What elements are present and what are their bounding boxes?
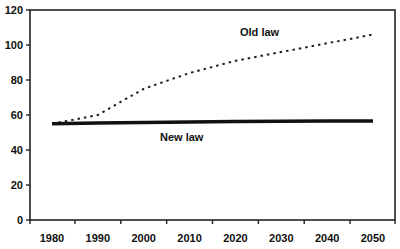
x-tick-label: 2040 — [315, 232, 339, 244]
line-chart: 020406080100120 198019902000201020202030… — [0, 0, 400, 249]
y-tick-label: 60 — [11, 109, 23, 121]
new-law-label: New law — [160, 131, 204, 143]
y-tick-label: 40 — [11, 144, 23, 156]
y-tick-label: 20 — [11, 179, 23, 191]
y-tick-label: 120 — [5, 4, 23, 16]
x-tick-label: 2030 — [269, 232, 293, 244]
plot-frame — [30, 10, 395, 220]
x-tick-label: 2050 — [361, 232, 385, 244]
x-tick-label: 2020 — [223, 232, 247, 244]
y-tick-label: 80 — [11, 74, 23, 86]
y-tick-label: 0 — [17, 214, 23, 226]
x-tick-label: 2000 — [131, 232, 155, 244]
x-tick-label: 1990 — [86, 232, 110, 244]
x-tick-label: 1980 — [40, 232, 64, 244]
x-tick-label: 2010 — [177, 232, 201, 244]
old-law-label: Old law — [240, 26, 280, 38]
x-axis: 19801990200020102020203020402050 — [30, 220, 395, 244]
y-axis: 020406080100120 — [5, 4, 30, 226]
plot-area — [30, 10, 395, 220]
y-tick-label: 100 — [5, 39, 23, 51]
chart-canvas: 020406080100120 198019902000201020202030… — [0, 0, 400, 249]
